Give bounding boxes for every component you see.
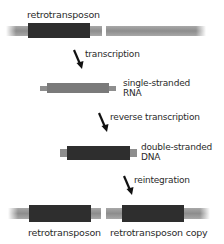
retrotransposon-copy-label: retrotransposon copy — [110, 228, 208, 238]
reverse-transcription-label: reverse transcription — [110, 112, 200, 122]
dna-label-line1: double-stranded — [141, 142, 212, 152]
rna-label-line1: single-stranded — [123, 78, 190, 88]
bottom-retrotransposon-label: retrotransposon — [28, 228, 101, 238]
reintegration-label: reintegration — [134, 175, 190, 185]
dna-label-line2: DNA — [141, 152, 160, 162]
top-retrotransposon-label: retrotransposon — [27, 10, 100, 20]
rna-label-line2: RNA — [123, 88, 142, 98]
transcription-label: transcription — [85, 49, 140, 59]
transcription-arrow-icon — [70, 48, 86, 72]
retrotransposon-copy-element — [122, 205, 184, 222]
reverse-transcription-arrow-icon — [95, 111, 111, 135]
top-retrotransposon-element — [28, 23, 90, 38]
bottom-retrotransposon-element — [29, 205, 91, 222]
